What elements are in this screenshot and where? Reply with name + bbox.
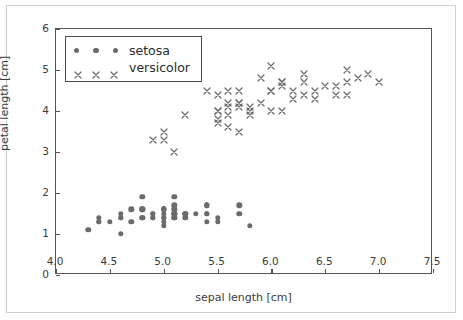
data-point-setosa <box>204 203 209 208</box>
data-point-versicolor <box>278 107 286 115</box>
data-point-versicolor <box>160 128 168 136</box>
data-point-setosa <box>204 203 209 208</box>
data-point-setosa <box>193 211 198 216</box>
data-point-versicolor <box>332 82 340 90</box>
data-point-versicolor <box>224 103 232 111</box>
circle-marker <box>74 48 120 53</box>
y-tick-label: 5 <box>31 63 49 75</box>
data-point-versicolor <box>354 74 362 82</box>
data-point-versicolor <box>343 78 351 86</box>
x-marker <box>74 64 120 72</box>
legend-label: versicolor <box>129 60 190 75</box>
x-tick-label: 6.5 <box>316 255 333 267</box>
data-point-versicolor <box>235 99 243 107</box>
data-point-setosa <box>139 194 144 199</box>
data-point-versicolor <box>278 78 286 86</box>
data-point-setosa <box>118 231 123 236</box>
data-point-versicolor <box>160 136 168 144</box>
data-point-versicolor <box>224 123 232 131</box>
data-point-versicolor <box>289 87 297 95</box>
data-point-versicolor <box>246 103 254 111</box>
legend-label: setosa <box>129 43 170 58</box>
y-tick-label: 0 <box>31 268 49 280</box>
data-point-versicolor <box>214 119 222 127</box>
data-point-versicolor <box>214 91 222 99</box>
data-point-setosa <box>172 211 177 216</box>
data-point-versicolor <box>235 87 243 95</box>
data-point-setosa <box>247 223 252 228</box>
x-tick <box>271 269 272 273</box>
data-point-setosa <box>172 215 177 220</box>
data-point-setosa <box>172 207 177 212</box>
data-point-versicolor <box>321 82 329 90</box>
data-point-versicolor <box>149 136 157 144</box>
data-point-setosa <box>172 215 177 220</box>
data-point-versicolor <box>235 103 243 111</box>
x-tick-label: 7.0 <box>370 255 387 267</box>
data-point-setosa <box>139 207 144 212</box>
data-point-setosa <box>139 207 144 212</box>
data-point-setosa <box>118 215 123 220</box>
y-tick <box>56 152 60 153</box>
x-tick-label: 7.5 <box>424 255 441 267</box>
data-point-versicolor <box>278 78 286 86</box>
data-point-versicolor <box>214 115 222 123</box>
data-point-setosa <box>139 215 144 220</box>
data-point-versicolor <box>181 111 189 119</box>
data-point-setosa <box>86 227 91 232</box>
x-marker-glyph <box>110 64 118 72</box>
data-point-setosa <box>183 211 188 216</box>
x-marker-glyph <box>74 64 82 72</box>
data-point-versicolor <box>246 111 254 119</box>
x-tick-label: 4.0 <box>47 255 64 267</box>
data-point-setosa <box>172 211 177 216</box>
x-tick-label: 6.0 <box>262 255 279 267</box>
data-point-versicolor <box>203 87 211 95</box>
plot-area: setosaversicolor <box>55 28 432 274</box>
data-point-versicolor <box>224 87 232 95</box>
data-point-setosa <box>215 215 220 220</box>
data-point-setosa <box>183 211 188 216</box>
data-point-setosa <box>139 215 144 220</box>
data-point-versicolor <box>267 87 275 95</box>
data-point-versicolor <box>246 107 254 115</box>
data-point-setosa <box>118 211 123 216</box>
legend-entry-versicolor: versicolor <box>74 59 190 76</box>
y-tick <box>56 70 60 71</box>
y-tick <box>56 111 60 112</box>
data-point-setosa <box>161 211 166 216</box>
data-point-setosa <box>161 207 166 212</box>
x-tick <box>164 269 165 273</box>
data-point-setosa <box>236 211 241 216</box>
data-point-setosa <box>161 223 166 228</box>
data-point-versicolor <box>224 99 232 107</box>
data-point-setosa <box>172 194 177 199</box>
data-point-setosa <box>129 219 134 224</box>
data-point-setosa <box>236 203 241 208</box>
data-point-setosa <box>150 211 155 216</box>
data-point-setosa <box>150 211 155 216</box>
data-point-versicolor <box>343 66 351 74</box>
data-point-setosa <box>215 219 220 224</box>
data-point-versicolor <box>278 82 286 90</box>
data-point-versicolor <box>289 95 297 103</box>
circle-marker-glyph <box>113 48 118 53</box>
x-tick <box>325 269 326 273</box>
figure-frame: setosaversicolor 4.04.55.05.56.06.57.07.… <box>6 5 456 313</box>
data-point-setosa <box>161 207 166 212</box>
y-tick <box>56 193 60 194</box>
x-tick-label: 5.5 <box>208 255 225 267</box>
data-point-versicolor <box>267 107 275 115</box>
data-point-versicolor <box>170 148 178 156</box>
data-point-versicolor <box>235 128 243 136</box>
data-point-setosa <box>172 211 177 216</box>
x-tick <box>218 269 219 273</box>
data-point-versicolor <box>257 99 265 107</box>
data-point-setosa <box>161 219 166 224</box>
circle-marker-glyph <box>93 48 98 53</box>
data-point-setosa <box>161 207 166 212</box>
data-point-versicolor <box>267 87 275 95</box>
data-point-setosa <box>204 211 209 216</box>
x-tick <box>433 269 434 273</box>
data-point-setosa <box>118 215 123 220</box>
